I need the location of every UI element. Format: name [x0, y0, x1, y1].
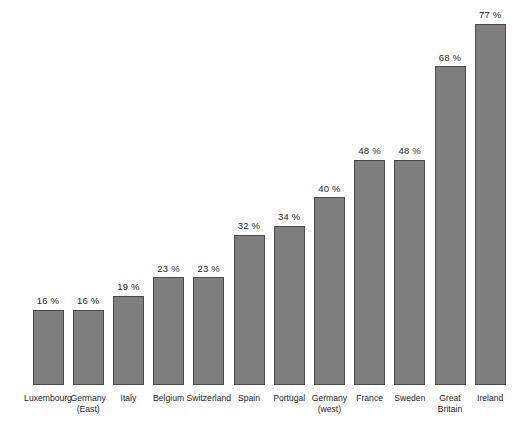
bar-group: 34 %Portugal	[269, 226, 309, 385]
bar-group: 23 %Switzerland	[189, 277, 229, 385]
bar	[193, 277, 224, 385]
bar-value-label: 23 %	[198, 264, 220, 274]
bar	[33, 310, 64, 385]
bar-value-label: 16 %	[77, 296, 99, 306]
bar-value-label: 68 %	[439, 53, 461, 63]
bar-group: 48 %Sweden	[390, 160, 430, 385]
bar-group: 16 %Germany (East)	[68, 310, 108, 385]
bar-group: 40 %Germany (west)	[309, 197, 349, 385]
bar-group: 32 %Spain	[229, 235, 269, 385]
bar-value-label: 77 %	[479, 10, 501, 20]
bar	[234, 235, 265, 385]
bar	[113, 296, 144, 385]
bar	[394, 160, 425, 385]
bar-value-label: 48 %	[399, 146, 421, 156]
bar-group: 77 %Ireland	[470, 24, 510, 385]
bar	[435, 66, 466, 385]
bar	[354, 160, 385, 385]
bar-value-label: 40 %	[318, 184, 340, 194]
bar	[475, 24, 506, 385]
bar-group: 68 %Great Britain	[430, 66, 470, 385]
bar	[73, 310, 104, 385]
bar-group: 16 %Luxembourg	[28, 310, 68, 385]
bar-group: 19 %Italy	[108, 296, 148, 385]
category-axis-label: Ireland	[459, 393, 515, 404]
bar-group: 23 %Belgium	[149, 277, 189, 385]
bar-value-label: 48 %	[358, 146, 380, 156]
bar-value-label: 19 %	[117, 282, 139, 292]
bar-value-label: 23 %	[157, 264, 179, 274]
bar-chart: 16 %Luxembourg16 %Germany (East)19 %Ital…	[0, 0, 515, 446]
bar	[153, 277, 184, 385]
bar-value-label: 16 %	[37, 296, 59, 306]
plot-area: 16 %Luxembourg16 %Germany (East)19 %Ital…	[0, 0, 515, 446]
bar-group: 48 %France	[350, 160, 390, 385]
bar-value-label: 34 %	[278, 212, 300, 222]
bar	[274, 226, 305, 385]
bar-value-label: 32 %	[238, 221, 260, 231]
bar	[314, 197, 345, 385]
